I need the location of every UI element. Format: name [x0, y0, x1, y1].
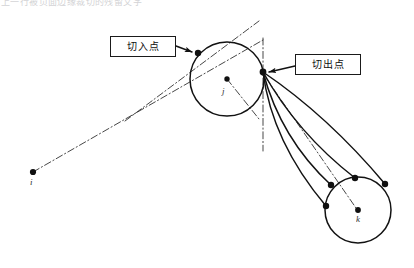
vertex-label-k: k [356, 215, 360, 224]
node-k-3 [382, 181, 388, 187]
node-center-j [224, 76, 229, 81]
construction-lines [33, 21, 356, 208]
callout-box-cut-out: 切出点 [295, 54, 361, 75]
trajectory-curve-1 [263, 72, 326, 206]
callout-leaders [176, 46, 295, 72]
figure-canvas: 上一行被页面边缘裁切的残留文字 [0, 0, 414, 268]
node-k-1 [328, 182, 334, 188]
line-i-to-center-j [33, 40, 263, 172]
node-center-k [355, 207, 361, 213]
node-k-2 [352, 175, 358, 181]
node-cut-out-point [260, 69, 267, 76]
callout-box-cut-in: 切入点 [110, 36, 176, 57]
diagram-svg [0, 0, 414, 268]
trajectory-curve-fan [263, 72, 385, 206]
leader-cut-in [176, 46, 192, 52]
trajectory-curve-4 [263, 72, 385, 184]
vertex-label-j: j [222, 87, 225, 96]
vertex-label-i: i [30, 178, 33, 187]
leader-cut-out [269, 66, 295, 72]
node-point-i [30, 169, 36, 175]
node-k-4 [323, 203, 329, 209]
node-cut-in-point [195, 50, 201, 56]
